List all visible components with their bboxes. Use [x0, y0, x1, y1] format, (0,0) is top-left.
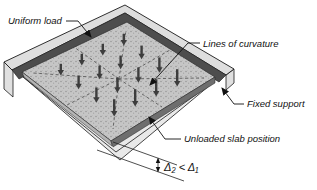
deflection-label: Δ₂ < Δ₁ [163, 161, 199, 173]
unloaded-slab-label: Unloaded slab position [184, 133, 280, 144]
slab-diagram: Δ₂ < Δ₁ Uniform load Lines of curvature … [0, 0, 317, 190]
slab-behavior-figure: Δ₂ < Δ₁ Uniform load Lines of curvature … [0, 0, 317, 190]
fixed-support-leader [222, 88, 244, 104]
fixed-support-label: Fixed support [247, 98, 305, 109]
uniform-load-label: Uniform load [8, 15, 63, 26]
lines-of-curvature-label: Lines of curvature [203, 38, 279, 49]
